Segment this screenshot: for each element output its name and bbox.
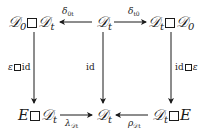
label-id-epsilon: idε xyxy=(175,62,197,73)
box-product-icon xyxy=(27,18,37,28)
node-top-right: 𝒟t𝒟0 xyxy=(148,13,194,36)
box-product-icon xyxy=(30,111,40,121)
node-symbol: 𝒟 xyxy=(96,106,108,124)
node-subscript: t xyxy=(50,21,54,32)
box-product-icon xyxy=(185,64,192,71)
label-subscript: 0t xyxy=(67,10,73,17)
box-product-icon xyxy=(165,18,175,28)
node-symbol: E xyxy=(180,106,191,124)
label-text: id xyxy=(22,62,31,72)
label-subscript: t0 xyxy=(133,10,139,17)
node-subscript: 0 xyxy=(20,21,26,32)
node-symbol: 𝒟 xyxy=(41,106,53,124)
node-subscript: 0 xyxy=(188,21,194,32)
label-text: id xyxy=(86,62,95,72)
node-bottom-left: E𝒟t xyxy=(18,106,57,129)
node-subscript: t xyxy=(164,114,168,125)
box-product-icon xyxy=(14,64,21,71)
node-bottom-right: 𝒟tE xyxy=(152,106,191,129)
node-symbol: E xyxy=(18,106,29,124)
label-symbol: ε xyxy=(8,62,13,72)
node-subscript: t xyxy=(108,114,112,125)
label-lambda: λ𝒟t xyxy=(65,118,78,131)
label-subscript: 𝒟t xyxy=(71,122,78,129)
node-subscript: t xyxy=(160,21,164,32)
label-subscript: 𝒟t xyxy=(133,122,140,129)
node-bottom-center: 𝒟t xyxy=(96,106,112,129)
node-symbol: 𝒟 xyxy=(96,13,108,31)
label-rho: ρ𝒟t xyxy=(128,118,141,131)
node-symbol: 𝒟 xyxy=(38,13,50,31)
node-symbol: 𝒟 xyxy=(176,13,188,31)
label-delta-0t: δ0t xyxy=(62,6,74,19)
label-delta-t0: δt0 xyxy=(128,6,140,19)
node-symbol: 𝒟 xyxy=(152,106,164,124)
label-text: id xyxy=(175,62,184,72)
node-subscript: t xyxy=(53,114,57,125)
node-subscript: t xyxy=(108,21,112,32)
node-top-left: 𝒟0𝒟t xyxy=(8,13,54,36)
node-top-center: 𝒟t xyxy=(96,13,112,36)
label-epsilon-id: εid xyxy=(8,62,30,73)
node-symbol: 𝒟 xyxy=(148,13,160,31)
label-id: id xyxy=(86,62,95,73)
box-product-icon xyxy=(169,111,179,121)
node-symbol: 𝒟 xyxy=(8,13,20,31)
label-symbol: ε xyxy=(193,62,198,72)
